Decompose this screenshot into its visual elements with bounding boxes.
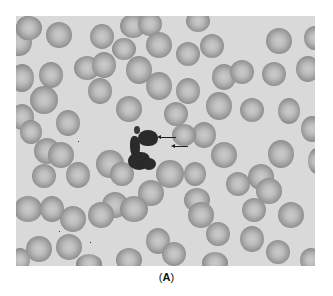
red-blood-cell [308,148,315,174]
red-blood-cell [206,92,232,120]
red-blood-cell [211,142,237,168]
red-blood-cell [16,196,42,222]
red-blood-cell [16,64,34,92]
debris-dot [78,141,79,142]
red-blood-cell [266,240,290,264]
red-blood-cell [184,162,206,186]
red-blood-cell [88,202,114,228]
white-blood-cell [124,116,168,182]
red-blood-cell [76,254,102,266]
red-blood-cell [206,222,230,246]
red-blood-cell [262,62,286,86]
red-blood-cell [56,234,82,260]
caption-close-paren: ) [170,271,174,283]
red-blood-cell [60,206,86,232]
red-blood-cell [32,164,56,188]
red-blood-cell [186,16,210,32]
red-blood-cell [301,116,315,142]
red-blood-cell [268,140,294,168]
nucleus-lobe [142,158,156,170]
red-blood-cell [16,16,42,40]
red-blood-cell [240,98,264,122]
red-blood-cell [200,34,224,58]
red-blood-cell [202,252,228,266]
red-blood-cell [176,78,200,104]
indicator-arrow [160,137,176,138]
red-blood-cell [92,52,116,78]
red-blood-cell [90,24,114,49]
red-blood-cell [266,28,292,54]
red-blood-cell [30,86,58,114]
red-blood-cell [226,172,250,196]
micrograph-image [16,16,315,266]
nucleus-lobe [134,126,140,134]
red-blood-cell [146,72,172,100]
red-blood-cell [66,162,90,188]
red-blood-cell [300,248,315,266]
red-blood-cell [240,226,264,252]
figure-caption: (A) [0,271,333,283]
red-blood-cell [162,242,186,266]
red-blood-cell [176,42,200,66]
red-blood-cell [278,202,304,228]
red-blood-cell [56,110,80,136]
debris-dot [59,231,60,232]
debris-dot [90,242,91,243]
indicator-arrow [174,146,188,147]
red-blood-cell [88,78,112,104]
red-blood-cell [278,98,300,124]
red-blood-cell [242,198,266,222]
red-blood-cell [116,248,142,266]
red-blood-cell [39,62,63,88]
red-blood-cell [46,22,72,48]
red-blood-cell [304,26,315,50]
red-blood-cell [296,56,315,82]
red-blood-cell [120,196,148,222]
red-blood-cell [172,124,196,146]
nucleus-lobe [138,130,158,146]
red-blood-cell [230,60,254,84]
red-blood-cell [146,32,172,58]
